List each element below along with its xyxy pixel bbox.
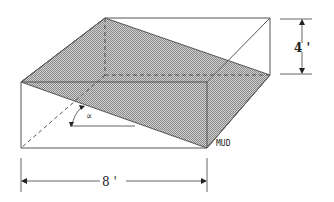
length-label: 8 ' bbox=[102, 175, 117, 189]
mud-label: MUD bbox=[216, 139, 231, 148]
mud-plane bbox=[21, 18, 270, 148]
height-label: 4 ' bbox=[294, 41, 310, 55]
angle-label: ∝ bbox=[86, 111, 92, 121]
box-diagram: ∝ 4 ' 8 ' MUD bbox=[0, 0, 334, 202]
